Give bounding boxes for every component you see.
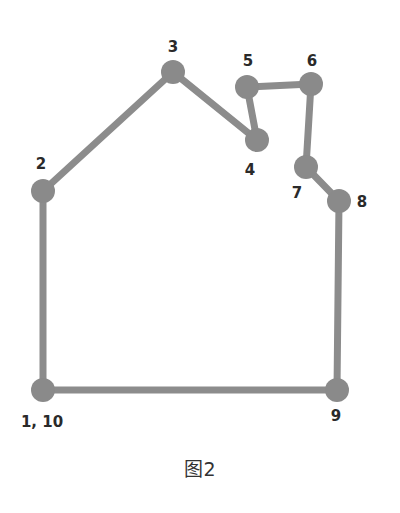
node-label-3: 3 <box>168 38 178 56</box>
nodes <box>31 60 351 402</box>
node-5 <box>235 75 259 99</box>
node-label-5: 5 <box>243 52 253 70</box>
figure-caption: 图2 <box>184 454 215 481</box>
edge-8-9 <box>337 201 339 390</box>
node-3 <box>161 60 185 84</box>
node-label-9: 9 <box>331 407 341 425</box>
node-label-4: 4 <box>245 161 255 179</box>
node-9 <box>325 378 349 402</box>
node-1 <box>31 378 55 402</box>
dot-to-dot-house-diagram <box>0 0 400 513</box>
node-label-6: 6 <box>307 52 317 70</box>
node-4 <box>245 128 269 152</box>
node-label-8: 8 <box>357 193 367 211</box>
edge-6-7 <box>306 84 311 167</box>
node-7 <box>294 155 318 179</box>
node-label-7: 7 <box>292 184 302 202</box>
node-6 <box>299 72 323 96</box>
node-8 <box>327 189 351 213</box>
edge-2-3 <box>43 72 173 191</box>
node-label-2: 2 <box>36 155 46 173</box>
node-label-1: 1, 10 <box>21 413 63 431</box>
node-2 <box>31 179 55 203</box>
edges <box>43 72 339 390</box>
